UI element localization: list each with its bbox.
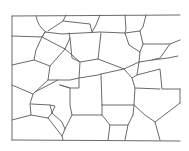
stone-outline	[125, 15, 126, 33]
stone-outline	[12, 80, 48, 94]
stone-outline	[48, 49, 80, 80]
stone-outline	[42, 32, 70, 49]
stone-outline	[12, 31, 140, 37]
stone-outline	[101, 74, 102, 105]
stone-outline	[63, 21, 92, 32]
stone-outline	[134, 103, 180, 122]
stone-pattern-drawing	[0, 0, 189, 151]
stone-outline	[12, 15, 180, 16]
stone-outline	[143, 40, 180, 44]
stone-outline	[139, 56, 178, 62]
stone-outline	[132, 78, 135, 115]
stone-outline	[36, 16, 46, 32]
stone-outline	[155, 122, 160, 140]
stone-outline	[12, 115, 63, 140]
stone-outline	[34, 37, 50, 66]
stone-outline	[98, 59, 139, 69]
stone-outline	[12, 60, 34, 65]
stone-outline	[135, 88, 160, 89]
stone-outline	[140, 31, 143, 52]
stone-outline	[52, 113, 65, 129]
stone-outline	[125, 125, 128, 140]
stone-outline	[48, 49, 65, 80]
stone-outline	[92, 15, 100, 32]
stone-outline	[12, 140, 180, 141]
stone-outline	[124, 62, 139, 78]
stone-outline	[60, 85, 102, 115]
stone-outline	[48, 15, 66, 31]
stone-outline	[137, 69, 180, 89]
stone-outline	[140, 15, 146, 31]
flagstone-sketch: Flagstone wall sketch	[0, 0, 189, 151]
stone-outline	[125, 33, 140, 62]
stone-outline	[110, 115, 133, 125]
stone-outline	[102, 115, 110, 140]
